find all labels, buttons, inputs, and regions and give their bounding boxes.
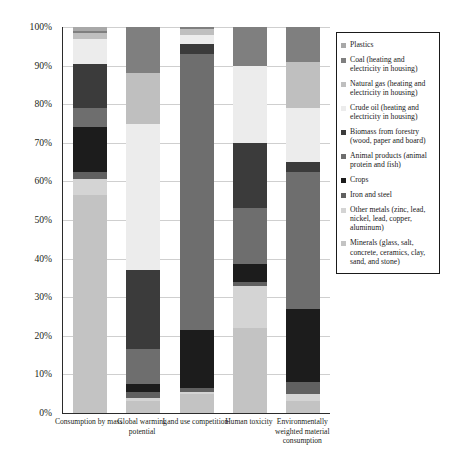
legend-swatch-icon <box>341 208 346 213</box>
bar-segment <box>73 39 107 64</box>
bar-segment <box>126 124 160 271</box>
legend-label: Animal products (animal protein and fish… <box>350 151 434 170</box>
legend-label: Other metals (zinc, lead, nickel, lead, … <box>350 205 434 233</box>
legend-item[interactable]: Animal products (animal protein and fish… <box>341 151 434 170</box>
x-axis-tick-labels: Consumption by massGlobal warming potent… <box>62 417 330 461</box>
bar-segment <box>73 64 107 108</box>
legend-swatch-icon <box>341 130 346 135</box>
legend-label: Crops <box>350 175 368 184</box>
legend-item[interactable]: Crude oil (heating and electricity in ho… <box>341 103 434 122</box>
legend-item[interactable]: Iron and steel <box>341 190 434 199</box>
bar-segment <box>180 394 214 413</box>
bar-segment <box>286 172 320 309</box>
bar-segment <box>126 349 160 384</box>
y-tick-label-80: 80% <box>34 99 52 109</box>
bar-segment <box>180 35 214 45</box>
stacked-bar-chart: 0%10%20%30%40%50%60%70%80%90%100% Consum… <box>0 0 456 462</box>
bar-segment <box>126 392 160 398</box>
bar-group <box>63 27 330 413</box>
legend-swatch-icon <box>341 58 346 63</box>
legend-label: Biomass from forestry (wood, paper and b… <box>350 127 434 146</box>
bar-segment <box>180 388 214 392</box>
legend-swatch-icon <box>341 178 346 183</box>
bar-column <box>286 27 320 413</box>
y-tick-label-70: 70% <box>34 138 52 148</box>
bar-segment <box>73 108 107 127</box>
bar-segment <box>233 27 267 66</box>
legend: PlasticsCoal (heating and electricity in… <box>336 32 440 274</box>
bar-segment <box>180 27 214 29</box>
y-tick-label-20: 20% <box>34 331 52 341</box>
bar-segment <box>286 309 320 382</box>
bar-segment <box>73 27 107 31</box>
bar-segment <box>126 398 160 402</box>
bar-segment <box>233 286 267 328</box>
legend-swatch-icon <box>341 82 346 87</box>
y-tick-label-90: 90% <box>34 61 52 71</box>
legend-swatch-icon <box>341 43 346 48</box>
bar-segment <box>233 328 267 413</box>
legend-label: Iron and steel <box>350 190 392 199</box>
bar-segment <box>126 401 160 413</box>
legend-item[interactable]: Minerals (glass, salt, concrete, ceramic… <box>341 238 434 266</box>
bar-segment <box>286 394 320 402</box>
legend-item[interactable]: Crops <box>341 175 434 184</box>
bar-segment <box>126 270 160 349</box>
bar-column <box>180 27 214 413</box>
legend-item[interactable]: Coal (heating and electricity in housing… <box>341 55 434 74</box>
legend-label: Plastics <box>350 40 374 49</box>
y-tick-label-60: 60% <box>34 177 52 187</box>
y-tick-label-40: 40% <box>34 254 52 264</box>
legend-label: Minerals (glass, salt, concrete, ceramic… <box>350 238 434 266</box>
bar-segment <box>233 264 267 281</box>
bar-segment <box>126 27 160 73</box>
bar-segment <box>286 401 320 413</box>
bar-segment <box>233 282 267 286</box>
legend-item[interactable]: Natural gas (heating and electricity in … <box>341 79 434 98</box>
bar-segment <box>233 143 267 209</box>
bar-segment <box>286 108 320 162</box>
bar-segment <box>286 162 320 172</box>
bar-segment <box>180 330 214 388</box>
legend-label: Natural gas (heating and electricity in … <box>350 79 434 98</box>
bar-segment <box>73 195 107 413</box>
bar-segment <box>180 29 214 35</box>
bar-segment <box>126 73 160 123</box>
bar-segment <box>286 27 320 62</box>
bar-column <box>73 27 107 413</box>
bar-segment <box>233 208 267 264</box>
y-tick-label-30: 30% <box>34 292 52 302</box>
bar-segment <box>73 172 107 180</box>
x-tick-label: Environmentally weighted material consum… <box>268 417 337 446</box>
legend-swatch-icon <box>341 106 346 111</box>
legend-label: Crude oil (heating and electricity in ho… <box>350 103 434 122</box>
y-tick-label-0: 0% <box>39 408 52 418</box>
legend-swatch-icon <box>341 241 346 246</box>
bar-segment <box>233 66 267 143</box>
bar-segment <box>286 382 320 394</box>
plot-area <box>62 27 330 414</box>
legend-swatch-icon <box>341 193 346 198</box>
legend-swatch-icon <box>341 154 346 159</box>
y-tick-label-10: 10% <box>34 370 52 380</box>
bar-segment <box>180 44 214 54</box>
y-tick-label-50: 50% <box>34 215 52 225</box>
legend-label: Coal (heating and electricity in housing… <box>350 55 434 74</box>
bar-segment <box>73 33 107 39</box>
bar-segment <box>73 127 107 171</box>
bar-segment <box>73 179 107 194</box>
bar-segment <box>126 384 160 392</box>
bar-segment <box>73 31 107 33</box>
y-axis-tick-labels: 0%10%20%30%40%50%60%70%80%90%100% <box>0 27 56 413</box>
legend-item[interactable]: Other metals (zinc, lead, nickel, lead, … <box>341 205 434 233</box>
bar-segment <box>180 392 214 394</box>
y-tick-label-100: 100% <box>30 22 52 32</box>
bar-column <box>233 27 267 413</box>
legend-item[interactable]: Plastics <box>341 40 434 49</box>
legend-item[interactable]: Biomass from forestry (wood, paper and b… <box>341 127 434 146</box>
bar-segment <box>286 62 320 108</box>
bar-segment <box>180 54 214 330</box>
bar-column <box>126 27 160 413</box>
